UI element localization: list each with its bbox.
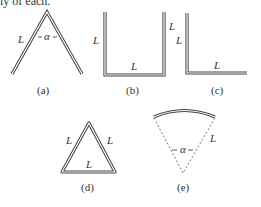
caption-c: (c) [211,84,224,97]
label-L: L [209,132,216,144]
label-L-horizontal: L [213,59,220,71]
figure-c: L L (c) [175,13,247,97]
label-L-left: L [92,34,99,46]
label-L-right: L [106,134,113,146]
caption-a: (a) [37,84,50,97]
figure-b: L L L (b) [92,12,175,97]
wire-shapes-diagram: L α (a) L L L (b) L L (c) L L L (d) [0,0,261,207]
label-alpha: α [44,30,50,42]
label-L-bottom: L [85,158,92,170]
figure-d: L L L (d) [62,123,115,194]
figure-e: α L (e) [154,111,216,195]
label-L-bottom: L [130,60,137,72]
label-L-right: L [168,20,175,32]
label-L-vertical: L [175,34,182,46]
label-L-left: L [65,134,72,146]
label-alpha: α [180,143,186,155]
figure-a: L α (a) [12,12,82,97]
caption-d: (d) [81,181,94,194]
caption-b: (b) [126,84,139,97]
caption-e: (e) [177,181,190,194]
label-L: L [17,33,24,45]
